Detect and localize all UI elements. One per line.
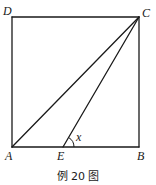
label-point-d: D bbox=[2, 4, 12, 18]
label-point-a: A bbox=[4, 149, 13, 163]
square-geometry-figure: D C A E B x 例 20 图 bbox=[0, 0, 156, 185]
label-point-e: E bbox=[56, 149, 65, 163]
segment-ec bbox=[63, 17, 139, 147]
label-point-c: C bbox=[142, 6, 151, 20]
figure-caption: 例 20 图 bbox=[57, 169, 100, 183]
segment-ac bbox=[12, 17, 139, 147]
label-point-b: B bbox=[137, 149, 145, 163]
angle-arc-x bbox=[69, 138, 74, 148]
label-angle-x: x bbox=[75, 130, 82, 144]
